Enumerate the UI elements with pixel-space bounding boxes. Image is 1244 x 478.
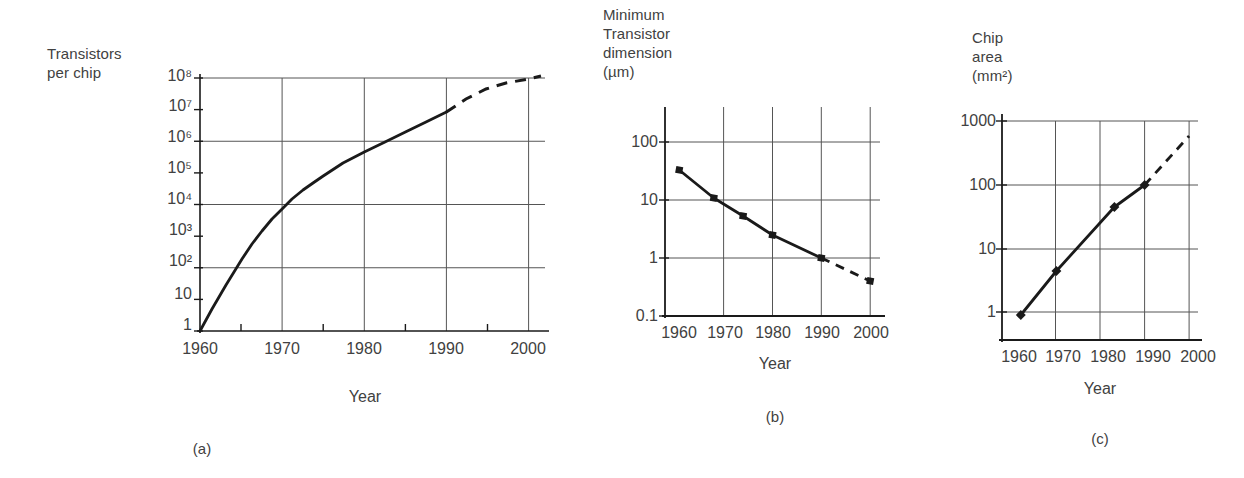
panel-c-caption: (c)	[1070, 430, 1130, 447]
panel-c-projected-line	[1145, 136, 1190, 185]
panel-c-data-markers	[1016, 180, 1150, 320]
panel-b-observed-line	[679, 170, 821, 258]
panel-b-xtick-2000: 2000	[844, 324, 898, 342]
panel-b: Minimum Transistor dimension (µm) 100 10…	[580, 0, 930, 478]
figure-moores-law-trends: Transistors per chip 10⁸ 10⁷ 10⁶ 10⁵ 10⁴…	[0, 0, 1244, 478]
panel-b-vertical-gridlines	[724, 107, 871, 316]
panel-b-data-markers	[675, 166, 874, 285]
panel-a-caption: (a)	[172, 440, 232, 457]
panel-a-projected-line	[446, 76, 541, 112]
panel-b-y-ticks	[659, 142, 669, 316]
panel-c-xtick-2000: 2000	[1171, 348, 1225, 366]
panel-a-xtick-1990: 1990	[414, 340, 478, 358]
panel-a-xtick-1960: 1960	[168, 340, 232, 358]
panel-c-observed-line	[1021, 185, 1145, 315]
panel-a: Transistors per chip 10⁸ 10⁷ 10⁶ 10⁵ 10⁴…	[0, 0, 580, 478]
panel-b-xtick-1990: 1990	[795, 324, 849, 342]
panel-b-caption: (b)	[745, 408, 805, 425]
panel-a-x-axis-title: Year	[330, 388, 400, 406]
panel-c-plot	[930, 0, 1244, 400]
panel-a-xtick-2000: 2000	[496, 340, 560, 358]
panel-b-x-axis-title: Year	[740, 355, 810, 373]
panel-c-x-axis-title: Year	[1065, 380, 1135, 398]
panel-b-projected-line	[821, 258, 870, 281]
panel-b-xtick-1980: 1980	[746, 324, 800, 342]
panel-a-y-minor-ticks	[194, 78, 203, 331]
panel-b-xtick-1970: 1970	[698, 324, 752, 342]
panel-a-horizontal-gridlines	[200, 78, 545, 268]
panel-c: Chip area (mm²) 1000 100 10 1	[930, 0, 1244, 478]
panel-c-vertical-gridlines	[1056, 121, 1190, 340]
panel-a-xtick-1970: 1970	[250, 340, 314, 358]
panel-a-xtick-1980: 1980	[332, 340, 396, 358]
panel-a-observed-line	[200, 112, 446, 331]
